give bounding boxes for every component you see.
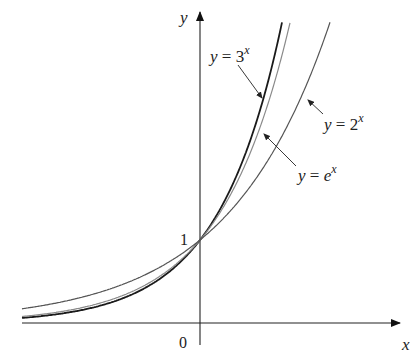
y-tick-label-1: 1 [180, 231, 188, 248]
annotation-3x: y = 3x [208, 43, 262, 98]
chart: x y 0 1 y = 3x y = 2x y = ex [0, 0, 415, 355]
annotation-ex: y = ex [264, 134, 337, 185]
annotation-2x: y = 2x [308, 100, 364, 134]
svg-text:y = ex: y = ex [296, 162, 337, 185]
curves [22, 22, 330, 318]
svg-text:y = 3x: y = 3x [208, 43, 250, 66]
origin-label: 0 [179, 334, 187, 351]
curve-ex [22, 23, 290, 317]
x-axis-label: x [401, 335, 410, 354]
svg-text:y = 2x: y = 2x [322, 111, 364, 134]
y-axis-label: y [178, 8, 188, 27]
